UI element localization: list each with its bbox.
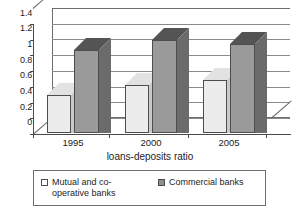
x-tick-label-2000: 2000: [125, 137, 177, 148]
x-tick-label-2005: 2005: [203, 137, 255, 148]
legend-label-mutual: Mutual and co- operative banks: [52, 177, 116, 199]
x-axis-tick-labels: 1995 2000 2005: [33, 137, 291, 151]
bar-mutual-2005: [203, 80, 227, 133]
back-wall-top-depth-edge: [33, 0, 54, 9]
bar-front-face: [47, 95, 71, 133]
bar-front-face: [74, 50, 99, 133]
bar-side-face: [255, 32, 267, 133]
y-tick-label: 1: [27, 40, 32, 49]
bar-commercial-2000: [152, 40, 177, 133]
chart-legend: Mutual and co- operative banks Commercia…: [33, 170, 266, 206]
gridline: [52, 24, 290, 25]
legend-entry-mutual: Mutual and co- operative banks: [41, 177, 151, 199]
bar-front-face: [230, 44, 255, 133]
y-tick-label: 0.6: [20, 71, 32, 80]
legend-entry-commercial: Commercial banks: [158, 177, 263, 188]
y-tick-mark: [30, 24, 34, 25]
y-axis-tick-labels: 1.4 1.2 1 0.8 0.6 0.4 0.2 0: [4, 0, 32, 138]
y-tick-mark: [30, 87, 34, 88]
bar-side-face: [99, 38, 111, 133]
bar-commercial-1995: [74, 50, 99, 133]
x-axis-title: loans-deposits ratio: [0, 151, 300, 163]
y-tick-mark: [30, 103, 34, 104]
bar-front-face: [203, 80, 227, 133]
plot-area: 1.4 1.2 1 0.8 0.6 0.4 0.2 0: [0, 0, 300, 138]
y-tick-label: 1.4: [20, 9, 32, 18]
legend-label-commercial: Commercial banks: [169, 177, 244, 188]
y-tick-mark: [30, 55, 34, 56]
legend-swatch-dark-icon: [158, 179, 165, 186]
bar-commercial-2005: [230, 44, 255, 133]
bar-mutual-1995: [47, 95, 71, 133]
x-tick-label-1995: 1995: [47, 137, 99, 148]
y-tick-mark: [30, 40, 34, 41]
y-tick-label: 0.2: [20, 103, 32, 112]
bar-side-face: [177, 28, 189, 133]
y-tick-label: 0.8: [20, 56, 32, 65]
bar-mutual-2000: [125, 85, 149, 133]
y-tick-mark: [30, 71, 34, 72]
legend-swatch-light-icon: [41, 179, 48, 186]
bar-front-face: [125, 85, 149, 133]
y-tick-label: 0.4: [20, 87, 32, 96]
bar-chart-figure: 1.4 1.2 1 0.8 0.6 0.4 0.2 0: [0, 0, 300, 215]
x-axis-line: [33, 134, 291, 135]
y-tick-mark: [30, 118, 34, 119]
chart-axes: [33, 8, 291, 132]
bar-front-face: [152, 40, 177, 133]
y-tick-label: 0: [27, 118, 32, 127]
y-tick-label: 1.2: [20, 24, 32, 33]
